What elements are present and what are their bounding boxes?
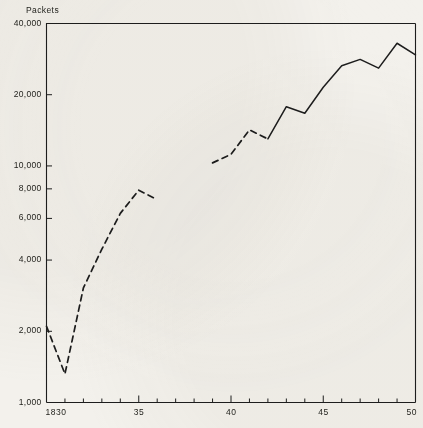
- y-tick-label: 40,000: [0, 18, 42, 28]
- data-series-lines: [47, 43, 416, 374]
- x-tick-label: 35: [134, 407, 144, 417]
- y-tick-label: 10,000: [0, 160, 42, 170]
- x-tick-label: 50: [407, 407, 417, 417]
- x-tick-label: 45: [318, 407, 328, 417]
- x-tick-label: 1830: [46, 407, 67, 417]
- series-line: [268, 43, 416, 139]
- x-tick-label: 40: [226, 407, 236, 417]
- series-line: [213, 130, 268, 163]
- y-tick-label: 20,000: [0, 89, 42, 99]
- axis-frame: [47, 24, 416, 403]
- y-tick-label: 6,000: [0, 212, 42, 222]
- y-tick-label: 8,000: [0, 183, 42, 193]
- x-axis-ticks: [65, 396, 397, 403]
- y-tick-label: 1,000: [0, 397, 42, 407]
- y-axis-ticks: [47, 95, 53, 332]
- series-line: [47, 190, 158, 374]
- chart-plot-area: [0, 0, 423, 428]
- y-tick-label: 4,000: [0, 254, 42, 264]
- y-tick-label: 2,000: [0, 325, 42, 335]
- chart-figure: Packets 40,00020,00010,0008,0006,0004,00…: [0, 0, 423, 428]
